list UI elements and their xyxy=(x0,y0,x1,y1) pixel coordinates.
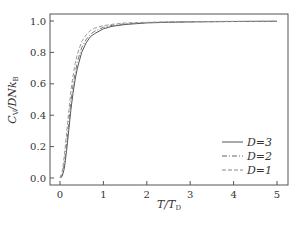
x-axis-label: T/TD xyxy=(157,198,181,212)
y-axis-label: CV/DNkB xyxy=(6,76,20,123)
series-line-d2 xyxy=(60,21,277,178)
y-tick-label: 1.0 xyxy=(30,16,46,27)
series-line-d1 xyxy=(60,21,277,178)
x-tick-label: 2 xyxy=(144,189,150,200)
y-tick-label: 0.6 xyxy=(30,78,46,89)
x-tick-label: 1 xyxy=(100,189,106,200)
x-tick-label: 5 xyxy=(274,189,280,200)
legend-label-d2: D=2 xyxy=(246,150,272,163)
plot-lines xyxy=(60,21,277,178)
legend: D=3 D=2 D=1 xyxy=(222,136,272,177)
x-tick-label: 0 xyxy=(57,189,63,200)
y-tick-label: 0.0 xyxy=(30,173,46,184)
chart: 012345 0.00.20.40.60.81.0 T/TD CV/DNkB D… xyxy=(0,0,304,227)
y-tick-label: 0.2 xyxy=(30,141,46,152)
x-tick-label: 4 xyxy=(230,189,236,200)
y-tick-label: 0.4 xyxy=(30,110,46,121)
x-tick-label: 3 xyxy=(187,189,193,200)
series-line-d3 xyxy=(60,21,277,178)
legend-label-d3: D=3 xyxy=(246,136,272,149)
y-tick-label: 0.8 xyxy=(30,47,46,58)
legend-label-d1: D=1 xyxy=(246,164,272,177)
